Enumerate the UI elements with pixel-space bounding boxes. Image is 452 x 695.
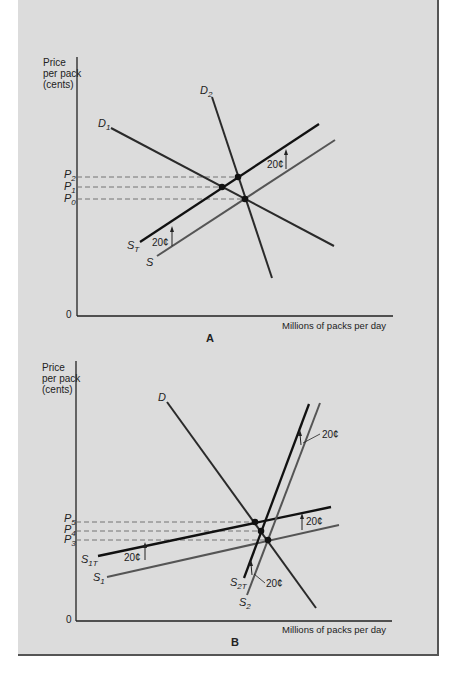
panel-a-y-axis-label: Price per pack (cents) (43, 57, 81, 90)
panel-a-origin: 0 (66, 309, 72, 320)
tax-label-a-left: 20¢ (152, 237, 169, 248)
curve-s2 (247, 403, 320, 595)
panel-a-x-axis-label: Millions of packs per day (282, 320, 386, 331)
y-label-line1: Price (43, 57, 81, 68)
panel-b-origin: 0 (66, 614, 72, 625)
panel-a-equilibrium-dots (219, 174, 249, 203)
label-s2: S2 (239, 596, 251, 611)
label-s: S (146, 256, 153, 268)
tax-label-b-s2-top: 20¢ (322, 429, 339, 440)
tick-p3: P3 (64, 533, 76, 548)
panel-b-dashed-lines (76, 522, 268, 540)
tax-label-b-s2-bottom: 20¢ (266, 578, 283, 589)
panel-b-y-axis-label: Price per pack (cents) (42, 362, 80, 395)
panel-a-axes (77, 57, 393, 316)
y-label-line3: (cents) (43, 79, 81, 90)
y-label-line2: per pack (43, 68, 81, 79)
label-st: ST (127, 239, 139, 254)
label-d: D (158, 391, 166, 403)
y-label-line3: (cents) (42, 384, 80, 395)
curve-s1 (107, 525, 339, 577)
tax-label-b-s1: 20¢ (124, 552, 141, 563)
tax-label-b-s1-right: 20¢ (306, 516, 323, 527)
panel-a-caption: A (206, 332, 214, 344)
tax-label-a-right: 20¢ (267, 159, 284, 170)
curve-s1t (98, 507, 331, 556)
tick-p0: P0 (64, 192, 76, 207)
panel-b-x-axis-label: Millions of packs per day (282, 624, 386, 635)
label-s1: S1 (93, 571, 105, 586)
chart-svg (0, 0, 452, 695)
panel-b-curves (98, 402, 339, 608)
y-label-line1: Price (42, 362, 80, 373)
label-s1t: S1T (81, 553, 98, 568)
label-s2t: S2T (230, 576, 247, 591)
label-d1: D1 (98, 117, 110, 132)
label-d2: D2 (200, 84, 212, 99)
panel-b-caption: B (231, 636, 239, 648)
y-label-line2: per pack (42, 373, 80, 384)
